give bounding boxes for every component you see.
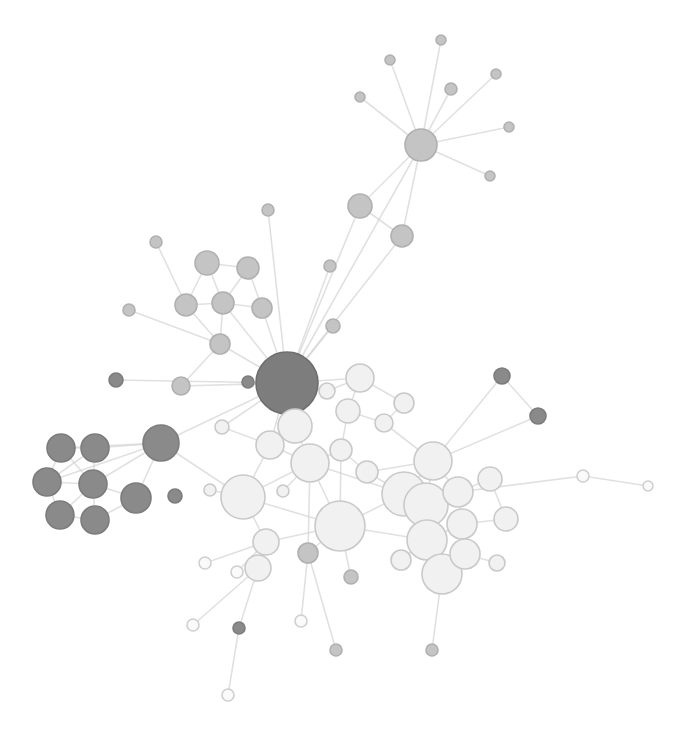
graph-node-l6 — [253, 529, 279, 555]
graph-node-t5 — [436, 35, 446, 45]
graph-node-d14 — [233, 622, 245, 634]
graph-node-d2 — [81, 434, 109, 462]
graph-edge — [287, 145, 421, 383]
graph-node-m4 — [212, 292, 234, 314]
graph-node-hub — [256, 352, 318, 414]
graph-node-t6 — [355, 92, 365, 102]
graph-node-m12 — [326, 319, 340, 333]
graph-node-p7 — [222, 689, 234, 701]
graph-node-t4 — [385, 55, 395, 65]
graph-node-d1 — [47, 434, 75, 462]
graph-node-t8 — [491, 69, 501, 79]
graph-node-l12 — [375, 414, 393, 432]
graph-node-l21 — [447, 509, 477, 539]
graph-node-l29 — [277, 485, 289, 497]
graph-node-l19 — [478, 467, 502, 491]
graph-node-d3 — [33, 468, 61, 496]
graph-node-m1 — [195, 251, 219, 275]
graph-node-l8 — [319, 383, 335, 399]
graph-node-t2 — [348, 194, 372, 218]
graph-node-d5 — [46, 501, 74, 529]
graph-node-m3 — [175, 294, 197, 316]
graph-edge — [129, 310, 220, 344]
graph-node-t3 — [391, 225, 413, 247]
graph-node-m5 — [252, 298, 272, 318]
graph-node-d12 — [494, 368, 510, 384]
graph-node-l3 — [291, 444, 329, 482]
graph-node-m15 — [330, 644, 342, 656]
graph-node-t10 — [485, 171, 495, 181]
edges-layer — [47, 40, 648, 695]
graph-node-d6 — [81, 506, 109, 534]
graph-node-p4 — [231, 566, 243, 578]
graph-node-l11 — [336, 399, 360, 423]
graph-node-t9 — [504, 122, 514, 132]
graph-node-l25 — [391, 550, 411, 570]
graph-node-d13 — [530, 408, 546, 424]
graph-node-m9 — [123, 304, 135, 316]
graph-node-d9 — [168, 489, 182, 503]
graph-node-m11 — [324, 260, 336, 272]
graph-node-l4 — [221, 475, 265, 519]
network-graph-canvas — [0, 0, 690, 735]
graph-node-p2 — [643, 481, 653, 491]
graph-node-m8 — [150, 236, 162, 248]
graph-node-d4 — [79, 470, 107, 498]
graph-node-l10 — [394, 393, 414, 413]
graph-node-d10 — [109, 373, 123, 387]
graph-node-p6 — [295, 615, 307, 627]
graph-node-p1 — [577, 470, 589, 482]
graph-node-m2 — [237, 257, 259, 279]
graph-node-p3 — [199, 557, 211, 569]
graph-node-l9 — [346, 364, 374, 392]
graph-node-m16 — [426, 644, 438, 656]
graph-node-l13 — [330, 439, 352, 461]
graph-node-m14 — [344, 570, 358, 584]
graph-node-m7 — [172, 377, 190, 395]
graph-node-l1 — [278, 409, 312, 443]
graph-node-l15 — [414, 442, 452, 480]
graph-node-m10 — [262, 204, 274, 216]
graph-edge — [228, 628, 239, 695]
graph-node-d8 — [143, 425, 179, 461]
graph-edge — [308, 553, 336, 650]
graph-node-l22 — [450, 539, 480, 569]
graph-node-l5 — [315, 501, 365, 551]
graph-node-p5 — [187, 619, 199, 631]
graph-node-l26 — [489, 555, 505, 571]
graph-edge — [583, 476, 648, 486]
graph-node-l18 — [443, 477, 473, 507]
graph-node-l7 — [245, 555, 271, 581]
graph-node-t1 — [405, 129, 437, 161]
graph-node-d7 — [121, 483, 151, 513]
graph-node-m6 — [210, 334, 230, 354]
graph-node-l14 — [356, 461, 378, 483]
graph-node-l28 — [204, 484, 216, 496]
graph-node-t7 — [445, 83, 457, 95]
graph-node-l27 — [215, 420, 229, 434]
nodes-layer — [33, 35, 653, 701]
graph-node-l2 — [256, 431, 284, 459]
graph-node-m13 — [298, 543, 318, 563]
graph-node-l24 — [494, 507, 518, 531]
graph-node-d11 — [242, 376, 254, 388]
